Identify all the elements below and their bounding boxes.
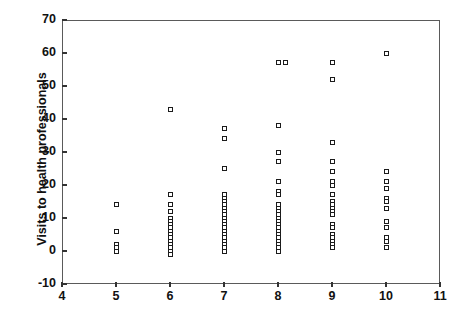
- x-tick-label: 10: [366, 289, 406, 303]
- y-tick-label: 50: [10, 78, 56, 92]
- scatter-plot-figure: Visits to health professionals -10010203…: [0, 0, 452, 314]
- data-point: [114, 249, 119, 254]
- data-point: [384, 51, 389, 56]
- data-point: [384, 219, 389, 224]
- data-point: [384, 245, 389, 250]
- data-point: [330, 183, 335, 188]
- y-tick-label: 70: [10, 12, 56, 26]
- chart-title: [52, 0, 352, 5]
- data-point: [384, 169, 389, 174]
- x-tick-label: 11: [420, 289, 452, 303]
- y-tick-label: 20: [10, 177, 56, 191]
- data-point: [276, 123, 281, 128]
- data-point: [276, 192, 281, 197]
- data-point: [330, 140, 335, 145]
- data-point: [168, 252, 173, 257]
- data-point: [384, 199, 389, 204]
- y-tick-label: 60: [10, 45, 56, 59]
- x-tick-label: 8: [258, 289, 298, 303]
- data-point: [330, 77, 335, 82]
- y-tick-label: 10: [10, 210, 56, 224]
- data-point: [384, 186, 389, 191]
- x-tick-label: 9: [312, 289, 352, 303]
- data-point: [384, 179, 389, 184]
- data-point: [384, 225, 389, 230]
- data-point: [168, 202, 173, 207]
- y-tick-label: 40: [10, 111, 56, 125]
- data-point: [330, 169, 335, 174]
- x-tick-label: 4: [42, 289, 82, 303]
- data-point: [276, 60, 281, 65]
- data-point: [330, 60, 335, 65]
- data-point: [276, 249, 281, 254]
- data-point: [222, 249, 227, 254]
- data-point: [330, 245, 335, 250]
- data-point: [276, 179, 281, 184]
- data-point: [222, 136, 227, 141]
- data-point: [114, 229, 119, 234]
- data-point: [330, 225, 335, 230]
- data-point: [168, 107, 173, 112]
- data-point: [276, 159, 281, 164]
- data-point: [330, 159, 335, 164]
- x-tick-label: 6: [150, 289, 190, 303]
- data-point: [330, 192, 335, 197]
- data-point: [222, 126, 227, 131]
- data-point: [168, 192, 173, 197]
- x-tick-label: 5: [96, 289, 136, 303]
- y-tick-label: -10: [10, 276, 56, 290]
- data-point: [283, 60, 288, 65]
- y-tick-label: 30: [10, 144, 56, 158]
- y-tick-label: 0: [10, 243, 56, 257]
- data-point: [384, 206, 389, 211]
- data-point: [384, 239, 389, 244]
- data-point: [276, 150, 281, 155]
- data-point: [222, 166, 227, 171]
- data-point: [114, 202, 119, 207]
- x-tick-label: 7: [204, 289, 244, 303]
- data-point: [168, 209, 173, 214]
- data-point: [330, 212, 335, 217]
- plot-area: [62, 20, 440, 284]
